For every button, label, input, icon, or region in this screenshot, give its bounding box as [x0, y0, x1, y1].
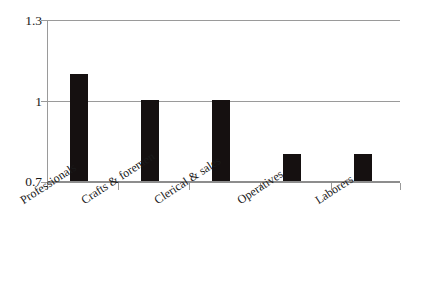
y-axis-tick-label-top: 1.3: [10, 13, 42, 29]
gridline-1.3: [47, 20, 400, 21]
y-axis-tick-label-mid: 1: [10, 94, 42, 110]
bar-operatives: [283, 154, 301, 181]
bar-laborers: [354, 154, 372, 181]
bar-chart: 1.3 1 0.7 Professionals Crafts & foremen…: [0, 0, 422, 283]
x-axis-tick-5: [400, 183, 401, 190]
plot-area: [47, 20, 400, 182]
